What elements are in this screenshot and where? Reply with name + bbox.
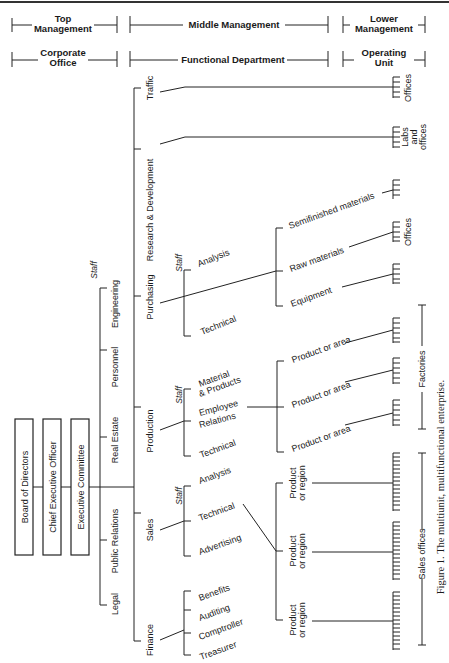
traffic-label: Traffic (145, 75, 155, 100)
sales-subunit-2-line2: or region (297, 533, 307, 569)
auditing-label: Auditing (197, 602, 231, 623)
purchasing-staff-label: Staff (174, 253, 184, 272)
equipment-comb (393, 264, 400, 284)
raw-materials-comb (393, 222, 400, 242)
production-technical-label: Technical (198, 438, 237, 460)
rnd-label: Research & Development (145, 158, 155, 261)
executive-committee-label: Executive Committee (76, 444, 86, 529)
purchasing-offices-label: Offices (403, 218, 413, 246)
rnd-unit-line3: offices (418, 124, 428, 150)
traffic-unit-comb (393, 77, 400, 98)
header-operating-unit: Operating Unit (343, 47, 425, 68)
traffic-offices-label: Offices (403, 74, 413, 102)
semifinished-comb (393, 180, 400, 199)
personnel-label: Personnel (110, 347, 120, 388)
raw-materials-label: Raw materials (288, 245, 345, 274)
production-staff-label: Staff (174, 385, 184, 404)
ceo-label: Chief Executive Officer (48, 441, 58, 532)
dept-finance: Finance Benefits Auditing Comptroller Tr… (145, 582, 244, 662)
sales-comb-3 (393, 592, 400, 650)
dept-production: Production Staff Material & Products Emp… (145, 305, 427, 460)
header-lower-line2: Management (355, 23, 414, 34)
board-of-directors-label: Board of Directors (20, 450, 30, 523)
sales-subunit-1-line2: or region (297, 465, 307, 501)
header-middle-text: Middle Management (189, 19, 281, 30)
sales-offices-label: Sales offices (417, 528, 427, 579)
production-label: Production (145, 409, 155, 452)
purchasing-technical-label: Technical (199, 314, 238, 337)
engineering-label: Engineering (110, 280, 120, 328)
production-subunit-2: Product or area (290, 379, 352, 410)
production-comb-1 (393, 318, 400, 343)
factories-label: Factories (417, 350, 427, 388)
production-subunit-1: Product or area (290, 334, 352, 365)
sales-advertising-label: Advertising (197, 532, 242, 557)
sales-subunit-3-line2: or region (297, 602, 307, 638)
public-relations-label: Public Relations (110, 508, 120, 573)
header-functional-text: Functional Department (181, 54, 285, 65)
treasurer-label: Treasurer (198, 639, 238, 662)
purchasing-analysis-label: Analysis (196, 247, 231, 269)
equipment-label: Equipment (289, 285, 333, 309)
sales-comb-2 (393, 522, 400, 580)
corporate-staff-label: Staff (89, 260, 99, 279)
rnd-unit-comb (393, 127, 400, 148)
header-middle-management: Middle Management (130, 16, 328, 33)
sales-label: Sales (145, 518, 155, 541)
header-functional-department: Functional Department (130, 51, 328, 67)
finance-label: Finance (145, 624, 155, 656)
figure-caption: Figure 1. The multiunit, multifunctional… (435, 380, 446, 594)
legal-label: Legal (110, 593, 120, 615)
header-corporate-office: Corporate Office (12, 47, 117, 68)
dept-sales: Sales Staff Analysis Technical Advertisi… (145, 453, 427, 650)
header-operating-line2: Unit (375, 57, 394, 68)
sales-staff-label: Staff (174, 486, 184, 505)
dept-traffic: Traffic Offices (145, 74, 413, 102)
department-spine (134, 88, 141, 641)
header-top-management: Top Management (12, 13, 117, 34)
sales-technical-label: Technical (197, 501, 236, 523)
header-lower-management: Lower Management (343, 13, 425, 34)
org-chart-diagram: Top Management Middle Management Lower M… (0, 0, 449, 663)
production-comb-2 (393, 358, 400, 384)
sales-analysis-label: Analysis (197, 465, 232, 486)
production-comb-3 (393, 400, 400, 426)
purchasing-label: Purchasing (145, 274, 155, 319)
sales-comb-1 (393, 453, 400, 511)
real-estate-label: Real Estate (110, 417, 120, 464)
benefits-label: Benefits (197, 582, 231, 603)
corporate-staff-group: Staff Engineering Personnel Real Estate … (89, 260, 120, 615)
production-subunit-3: Product or area (290, 423, 352, 454)
header-top-line2: Management (34, 23, 93, 34)
header-corporate-line2: Office (50, 57, 77, 68)
dept-purchasing: Purchasing Staff Analysis Technical Semi… (145, 180, 413, 337)
semifinished-materials-label: Semifinished materials (287, 190, 376, 231)
